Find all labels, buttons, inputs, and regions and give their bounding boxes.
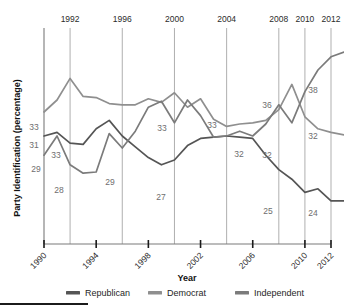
series-lines-group <box>44 52 344 201</box>
top-tick-label-2012: 2012 <box>322 14 341 24</box>
point-label-independent-32-9: 32 <box>234 149 244 159</box>
legend-swatch-independent <box>235 291 249 295</box>
legend-item-independent[interactable]: Independent <box>235 288 305 298</box>
top-tick-label-2000: 2000 <box>165 14 184 24</box>
point-label-republican-27-7: 27 <box>156 192 166 202</box>
series-line-republican <box>44 120 344 200</box>
point-label-democrat-32-11: 32 <box>262 150 272 160</box>
footer-rule <box>0 303 88 305</box>
top-axis-tick-labels: 1992199620002004200820102012 <box>61 14 341 24</box>
legend-swatch-republican <box>66 291 80 295</box>
x-axis-title: Year <box>177 273 197 283</box>
bottom-tick-label-2002: 2002 <box>185 250 206 271</box>
legend-item-democrat[interactable]: Democrat <box>148 288 207 298</box>
legend-label-independent: Independent <box>254 288 305 298</box>
point-label-republican-31-1: 31 <box>29 140 39 150</box>
bottom-tick-label-2006: 2006 <box>237 250 258 271</box>
legend-label-democrat: Democrat <box>167 288 207 298</box>
chart-legend: RepublicanDemocratIndependent <box>66 288 305 298</box>
bottom-tick-label-2012: 2012 <box>315 250 336 271</box>
point-label-democrat-32-14: 32 <box>308 131 318 141</box>
bottom-tick-label-1990: 1990 <box>28 250 49 271</box>
point-label-democrat-33-0: 33 <box>29 122 39 132</box>
point-label-independent-29-2: 29 <box>31 164 41 174</box>
point-label-democrat-33-6: 33 <box>157 123 167 133</box>
series-line-independent <box>44 52 344 173</box>
point-label-independent-28-4: 28 <box>54 185 64 195</box>
chart-canvas: 1992199620002004200820102012 19901994199… <box>0 0 344 307</box>
point-label-democrat-33-8: 33 <box>207 120 217 130</box>
point-label-republican-24-15: 24 <box>308 208 318 218</box>
bottom-tick-label-1994: 1994 <box>80 250 101 271</box>
party-identification-chart: 1992199620002004200820102012 19901994199… <box>0 0 344 307</box>
point-label-republican-25-12: 25 <box>263 206 273 216</box>
bottom-tick-label-2010: 2010 <box>289 250 310 271</box>
legend-label-republican: Republican <box>85 288 130 298</box>
top-tick-label-2008: 2008 <box>269 14 288 24</box>
legend-item-republican[interactable]: Republican <box>66 288 130 298</box>
data-point-labels: 33312933282933273332363225383224 <box>29 85 318 218</box>
bottom-axis-tick-labels: 1990199419982002200620102012 <box>28 250 336 271</box>
point-label-democrat-36-10: 36 <box>262 100 272 110</box>
point-label-independent-38-13: 38 <box>308 85 318 95</box>
top-tick-label-1992: 1992 <box>61 14 80 24</box>
top-tick-label-2004: 2004 <box>217 14 236 24</box>
point-label-republican-29-5: 29 <box>105 177 115 187</box>
bottom-tick-label-1998: 1998 <box>132 250 153 271</box>
point-label-independent-33-3: 33 <box>51 150 61 160</box>
top-tick-label-2010: 2010 <box>295 14 314 24</box>
y-axis-title: Party Identification (percentage) <box>12 79 22 217</box>
top-tick-label-1996: 1996 <box>113 14 132 24</box>
legend-swatch-democrat <box>148 291 162 295</box>
